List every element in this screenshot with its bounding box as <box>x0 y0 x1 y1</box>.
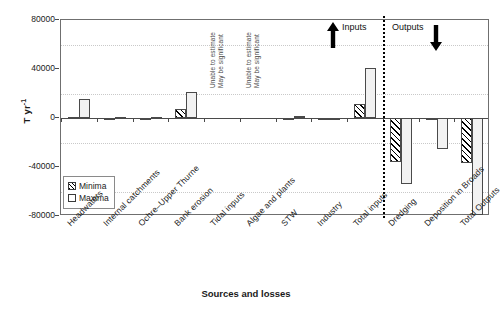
bar-maxima-industry <box>329 118 340 120</box>
bar-minima-total-outputs <box>461 118 472 163</box>
y-axis-title-exponent: -1 <box>20 99 27 106</box>
x-axis-title: Sources and losses <box>201 288 290 299</box>
legend-label-minima: Minima <box>79 180 106 192</box>
bar-maxima-total-inputs <box>365 68 376 119</box>
y-axis-title-text: T yr <box>21 105 32 123</box>
bar-maxima-internal-catchments <box>115 117 126 119</box>
x-tick-mark <box>61 118 62 122</box>
y-tick-mark <box>55 166 59 167</box>
x-tick-mark <box>347 118 348 122</box>
y-axis-title: T yr-1 <box>20 99 32 124</box>
x-tick-mark <box>419 118 420 122</box>
y-tick-mark <box>55 19 59 20</box>
x-tick-mark <box>311 118 312 122</box>
plot-area: Unable to estimateMay be significant Una… <box>60 19 489 215</box>
bar-minima-headwaters <box>68 117 79 119</box>
bar-minima-dredging <box>390 118 401 162</box>
bar-minima-bank-erosion <box>175 109 186 118</box>
bar-minima-stw <box>283 118 294 120</box>
gridline <box>61 45 488 46</box>
y-tick-label: -80000 <box>29 211 55 220</box>
y-tick-mark <box>55 215 59 216</box>
outputs-down-arrow-icon <box>429 25 443 55</box>
bar-minima-ochre-upper-thurne <box>140 118 151 120</box>
bar-maxima-bank-erosion <box>186 92 197 119</box>
annotation-line-2: May be significant <box>217 34 224 88</box>
bar-maxima-dredging <box>401 118 412 184</box>
inputs-up-arrow-icon <box>326 22 340 52</box>
y-tick-label: 80000 <box>31 15 55 24</box>
bar-maxima-deposition-in-broads <box>437 118 448 149</box>
bar-minima-total-inputs <box>354 104 365 118</box>
gridline <box>61 143 488 144</box>
x-tick-mark <box>168 118 169 122</box>
inputs-label: Inputs <box>342 22 367 32</box>
bar-maxima-ochre-upper-thurne <box>151 117 162 119</box>
annotation-line-1: Unable to estimate <box>245 32 252 88</box>
gridline <box>61 94 488 95</box>
legend-item-minima: Minima <box>68 180 109 192</box>
x-tick-mark <box>240 118 241 122</box>
annotation-line-2: May be significant <box>253 34 260 88</box>
annotation-tidal-inputs: Unable to estimateMay be significant <box>209 32 225 88</box>
x-tick-mark <box>97 118 98 122</box>
y-tick-label: 40000 <box>31 64 55 73</box>
bar-minima-deposition-in-broads <box>426 118 437 120</box>
x-tick-mark <box>133 118 134 122</box>
annotation-line-1: Unable to estimate <box>209 32 216 88</box>
bar-maxima-stw <box>294 116 305 118</box>
bar-minima-internal-catchments <box>104 118 115 120</box>
bar-maxima-headwaters <box>79 99 90 118</box>
inputs-outputs-divider <box>383 16 385 218</box>
bar-minima-industry <box>318 118 329 120</box>
y-tick-mark <box>55 117 59 118</box>
x-tick-mark <box>204 118 205 122</box>
legend-swatch-minima-icon <box>68 182 76 190</box>
outputs-label: Outputs <box>392 22 424 32</box>
legend-swatch-maxima-icon <box>68 194 76 202</box>
y-tick-mark <box>55 68 59 69</box>
y-tick-label: -40000 <box>29 162 55 171</box>
x-tick-mark <box>276 118 277 122</box>
x-tick-mark <box>454 118 455 122</box>
annotation-algae-and-plants: Unable to estimateMay be significant <box>245 32 261 88</box>
